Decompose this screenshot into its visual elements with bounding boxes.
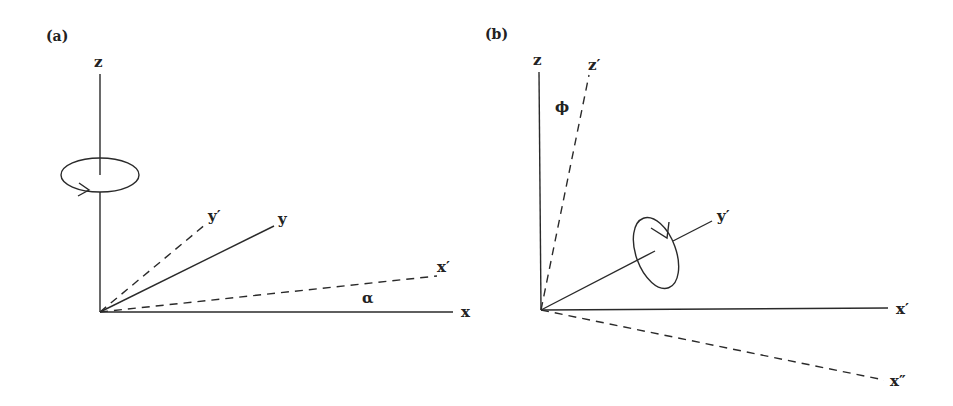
x-double-prime-axis-label: x″ — [890, 372, 906, 390]
panel-b: (b) z z′ ϕ x′ x″ y′ — [485, 26, 909, 390]
y-prime-axis-upper — [673, 221, 712, 241]
panel-a-label: (a) — [46, 28, 68, 44]
x-prime-axis — [100, 276, 437, 312]
rotation-ellipse-icon — [625, 211, 688, 294]
phi-angle-label: ϕ — [555, 98, 569, 116]
rotation-diagram: (a) z x y y′ x′ α (b) z z′ ϕ — [0, 0, 953, 406]
x-prime-axis-label: x′ — [437, 258, 450, 276]
y-prime-axis-label: y′ — [207, 207, 221, 225]
z-axis-label: z — [533, 51, 542, 69]
z-axis — [539, 72, 541, 310]
y-prime-axis-label: y′ — [716, 207, 730, 225]
x-axis-label: x — [461, 303, 471, 321]
y-axis-label: y — [277, 210, 288, 228]
x-prime-axis-label: x′ — [896, 300, 909, 318]
alpha-angle-label: α — [362, 289, 374, 307]
x-double-prime-axis — [541, 310, 884, 380]
x-prime-axis — [541, 308, 888, 310]
z-axis-label: z — [94, 53, 103, 71]
z-prime-axis-label: z′ — [588, 56, 601, 74]
panel-b-label: (b) — [485, 26, 508, 42]
panel-a: (a) z x y y′ x′ α — [46, 28, 471, 321]
